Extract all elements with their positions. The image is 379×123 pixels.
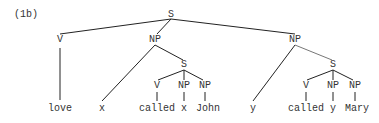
edge-s-np1 xyxy=(157,19,171,34)
edge-np1-x xyxy=(102,45,155,101)
node-np: NP xyxy=(199,81,211,91)
node-np: NP xyxy=(149,35,161,45)
edge-s2-np2 xyxy=(333,70,353,80)
leaf-y: y xyxy=(250,104,256,114)
node-np: NP xyxy=(289,35,301,45)
example-number: (1b) xyxy=(14,10,38,20)
edge-s-v xyxy=(60,19,171,34)
leaf-y: y xyxy=(330,104,336,114)
node-root-s: S xyxy=(168,10,174,20)
node-v: V xyxy=(57,35,63,45)
edge-s2-v xyxy=(307,70,333,80)
node-np: NP xyxy=(178,81,190,91)
node-s: S xyxy=(330,60,336,70)
edge-np2-s xyxy=(295,45,332,60)
leaf-love: love xyxy=(48,104,72,114)
node-v: V xyxy=(303,81,309,91)
node-np: NP xyxy=(349,81,361,91)
node-s: S xyxy=(181,60,187,70)
node-v: V xyxy=(154,81,160,91)
edge-s1-np2 xyxy=(184,70,203,80)
leaf-called: called xyxy=(288,104,324,114)
edge-np1-s xyxy=(155,45,183,60)
leaf-x: x xyxy=(181,104,187,114)
leaf-called: called xyxy=(139,104,175,114)
edge-s1-v xyxy=(158,70,184,80)
syntax-tree-diagram: (1b) S V NP NP S V NP NP S V NP NP love … xyxy=(0,0,379,123)
edge-np2-y xyxy=(253,45,295,101)
leaf-mary: Mary xyxy=(345,104,369,114)
leaf-x: x xyxy=(99,104,105,114)
node-np: NP xyxy=(327,81,339,91)
leaf-john: John xyxy=(196,104,220,114)
edge-s-np2 xyxy=(171,19,295,34)
